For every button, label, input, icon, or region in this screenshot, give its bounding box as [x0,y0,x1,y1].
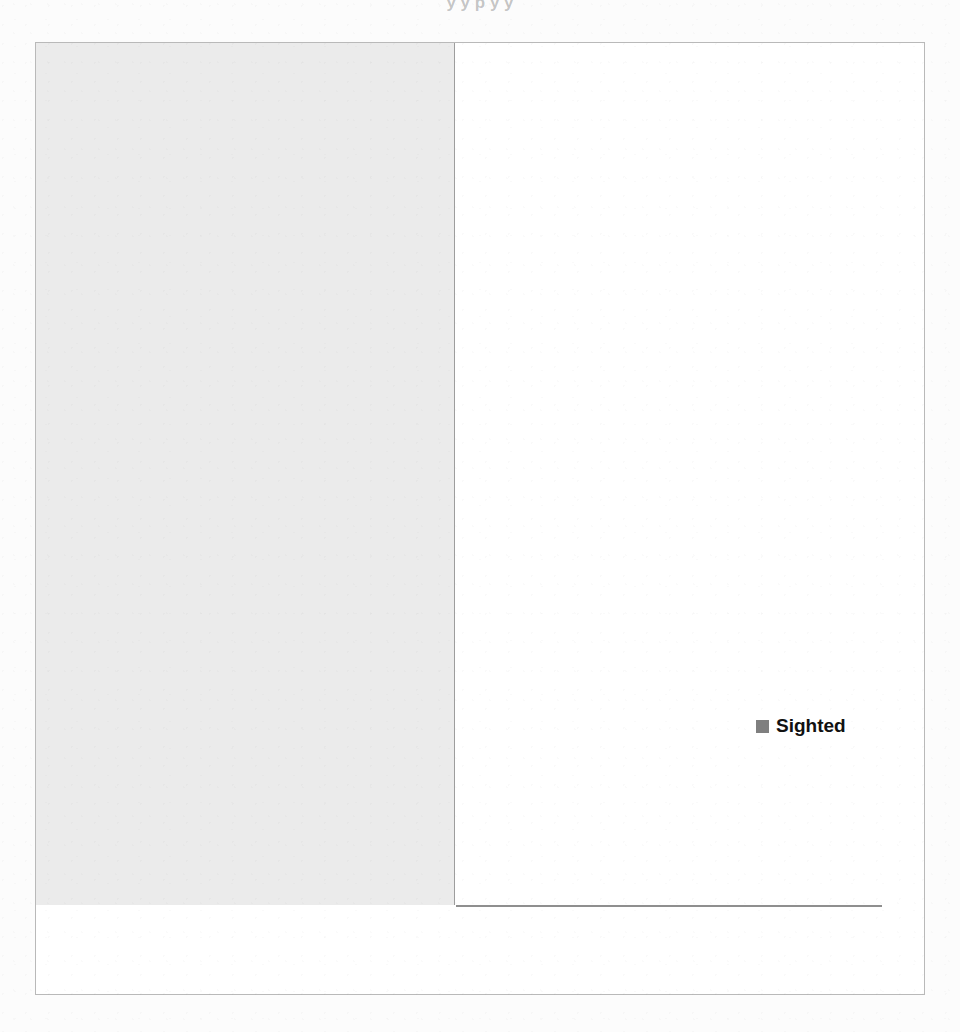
category-label-panel [36,43,455,905]
chart-legend[interactable]: Sighted [756,715,846,737]
cropped-title-remnant: y y p y y [0,0,960,14]
x-axis-line [456,905,882,907]
legend-color-swatch [756,720,769,733]
chart-page: y y p y y Sighted [0,0,960,1032]
chart-frame: Sighted [35,42,925,995]
legend-label: Sighted [776,715,846,737]
plot-area [456,43,881,905]
